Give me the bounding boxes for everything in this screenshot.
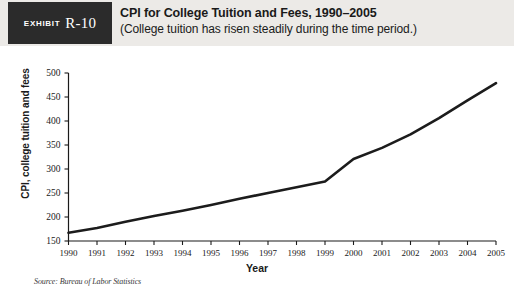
chart-x-ticks: 1990199119921993199419951996199719981999…: [60, 241, 506, 258]
page-title: CPI for College Tuition and Fees, 1990–2…: [120, 5, 506, 21]
svg-text:2000: 2000: [345, 248, 364, 258]
svg-text:1998: 1998: [288, 248, 307, 258]
svg-text:2001: 2001: [373, 248, 391, 258]
svg-text:1991: 1991: [88, 248, 106, 258]
svg-text:1996: 1996: [231, 248, 250, 258]
svg-text:150: 150: [46, 236, 61, 246]
chart-axes: [69, 73, 497, 241]
svg-text:250: 250: [46, 188, 61, 198]
chart-plot-area: CPI, college tuition and fees 1502002503…: [0, 46, 514, 303]
svg-text:2005: 2005: [487, 248, 506, 258]
exhibit-tag: EXHIBIT R-10: [8, 2, 112, 44]
svg-text:450: 450: [46, 92, 61, 102]
svg-text:1993: 1993: [145, 248, 164, 258]
svg-text:1990: 1990: [60, 248, 79, 258]
header-text-block: CPI for College Tuition and Fees, 1990–2…: [120, 5, 506, 37]
source-note: Source: Bureau of Labor Statistics: [34, 277, 141, 286]
exhibit-figure: EXHIBIT R-10 CPI for College Tuition and…: [0, 0, 514, 303]
svg-text:200: 200: [46, 212, 61, 222]
data-series-line: [69, 83, 497, 233]
svg-text:300: 300: [46, 164, 61, 174]
svg-text:1995: 1995: [202, 248, 221, 258]
exhibit-kicker-label: EXHIBIT: [24, 19, 60, 28]
svg-text:2002: 2002: [402, 248, 420, 258]
chart-y-ticks: 150200250300350400450500: [46, 68, 68, 246]
x-axis-title: Year: [0, 262, 514, 274]
svg-text:1997: 1997: [259, 248, 278, 258]
svg-text:350: 350: [46, 140, 61, 150]
svg-text:1999: 1999: [316, 248, 335, 258]
svg-text:1994: 1994: [174, 248, 193, 258]
svg-text:2004: 2004: [459, 248, 478, 258]
svg-text:500: 500: [46, 68, 61, 78]
exhibit-number-label: R-10: [65, 15, 96, 32]
page-subtitle: (College tuition has risen steadily duri…: [120, 21, 506, 37]
exhibit-header-band: EXHIBIT R-10 CPI for College Tuition and…: [0, 0, 514, 46]
svg-text:2003: 2003: [430, 248, 449, 258]
svg-text:1992: 1992: [117, 248, 135, 258]
svg-text:400: 400: [46, 116, 61, 126]
